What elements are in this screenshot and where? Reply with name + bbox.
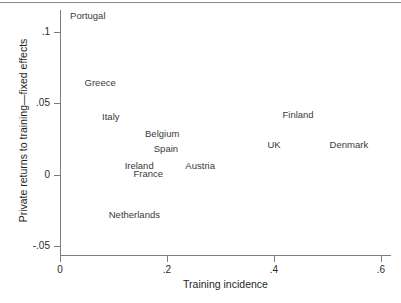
data-point-label: Denmark — [330, 140, 369, 150]
data-point-label: Belgium — [145, 129, 179, 139]
data-point-label: Netherlands — [109, 210, 160, 220]
data-point-label: Portugal — [70, 11, 105, 21]
data-point-label: France — [133, 169, 163, 179]
data-point-label: Italy — [102, 112, 119, 122]
data-point-label: UK — [267, 140, 280, 150]
data-point-label: Spain — [154, 144, 178, 154]
data-point-label: Finland — [282, 110, 313, 120]
data-point-label: Greece — [85, 78, 116, 88]
plot-area: PortugalGreeceItalyBelgiumSpainIrelandFr… — [0, 0, 401, 303]
data-point-label: Austria — [185, 161, 215, 171]
scatter-plot-figure: .1.050-.050.2.4.6 Private returns to tra… — [0, 0, 401, 303]
